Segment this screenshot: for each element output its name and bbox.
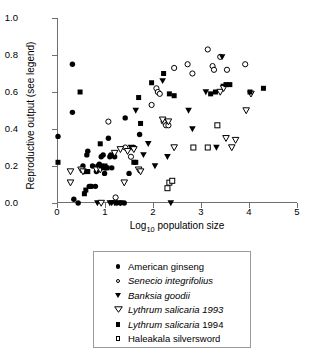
- x-tick-label: 2: [150, 207, 155, 217]
- data-point: [205, 47, 210, 52]
- data-point: [93, 184, 98, 189]
- data-point: [228, 145, 235, 151]
- legend-item[interactable]: Lythrum salicaria 1993: [94, 303, 250, 318]
- data-point: [224, 67, 229, 72]
- data-point: [85, 149, 90, 154]
- x-axis-label-base: Log: [130, 220, 147, 231]
- data-point: [261, 86, 266, 91]
- data-point: [75, 200, 80, 205]
- data-point: [191, 145, 196, 150]
- x-axis-label-subscript: 10: [146, 225, 154, 234]
- legend-marker-filled-circle-icon: [108, 264, 128, 269]
- legend-item-label: Banksia goodii: [128, 291, 190, 301]
- data-point: [83, 188, 88, 193]
- legend-item-label: Lythrum salicaria 1994: [128, 320, 223, 330]
- data-point: [67, 169, 74, 175]
- data-point: [67, 180, 74, 186]
- data-point: [117, 147, 124, 153]
- y-tick-label: 0.2: [5, 161, 18, 171]
- series-banksia-goodii: [94, 54, 227, 206]
- x-tick-mark: [105, 203, 106, 208]
- data-point: [126, 171, 131, 176]
- data-point: [56, 160, 61, 165]
- legend-item[interactable]: American ginseng: [94, 259, 250, 274]
- data-point: [70, 62, 75, 67]
- x-tick-label: 1: [102, 207, 107, 217]
- data-point: [227, 82, 232, 87]
- series-american-ginseng: [55, 62, 142, 206]
- data-point: [102, 171, 107, 176]
- x-tick-mark: [201, 203, 202, 208]
- x-tick-mark: [249, 203, 250, 208]
- y-tick-label: 1.0: [5, 13, 18, 23]
- legend-marker-open-triangle-down-icon: [108, 306, 128, 313]
- data-point: [215, 123, 220, 128]
- chart-page: 0.00.20.40.60.81.0 Reproductive output (…: [0, 0, 319, 357]
- y-tick-label: 0.4: [5, 124, 18, 134]
- x-tick-mark: [297, 203, 298, 208]
- data-point: [133, 160, 138, 165]
- data-point: [171, 145, 178, 151]
- data-point: [223, 136, 230, 142]
- legend-marker-filled-square-icon: [108, 322, 128, 327]
- data-point: [165, 186, 170, 191]
- series-senecio-integrifolius: [106, 47, 248, 200]
- data-point: [205, 145, 210, 150]
- data-point: [136, 95, 141, 100]
- legend-item-label: American ginseng: [128, 262, 204, 272]
- legend-item-label: Lythrum salicaria 1993: [128, 305, 223, 315]
- series-lythrum-salicaria-1994: [56, 71, 266, 196]
- x-tick-mark: [153, 203, 154, 208]
- legend-item[interactable]: Banksia goodii: [94, 288, 250, 303]
- legend-item[interactable]: Senecio integrifolius: [94, 274, 250, 289]
- data-point: [170, 178, 175, 183]
- data-point: [164, 154, 171, 160]
- data-point: [78, 90, 83, 95]
- data-point: [232, 137, 239, 143]
- y-axis-label: Reproductive output (see legend): [25, 16, 36, 216]
- data-point: [213, 145, 220, 151]
- x-tick-label: 4: [246, 207, 251, 217]
- plot-area: [57, 18, 297, 203]
- data-point: [70, 110, 75, 115]
- data-point: [161, 71, 166, 76]
- data-point: [243, 62, 248, 67]
- data-point: [104, 165, 109, 170]
- y-tick-label: 0.0: [5, 198, 18, 208]
- y-tick-label: 0.8: [5, 50, 18, 60]
- data-point: [98, 141, 103, 146]
- data-point: [113, 195, 118, 200]
- x-tick-label: 3: [198, 207, 203, 217]
- x-axis-label: Log10 population size: [57, 220, 297, 234]
- data-point: [55, 134, 60, 139]
- data-point: [106, 119, 111, 124]
- data-point: [138, 121, 143, 126]
- legend-marker-open-square-icon: [108, 336, 128, 341]
- x-tick-label: 5: [294, 207, 299, 217]
- data-point: [172, 93, 177, 98]
- legend-box: American ginsengSenecio integrifoliusBan…: [93, 251, 251, 348]
- data-point: [167, 91, 172, 96]
- data-point: [190, 71, 195, 76]
- data-point: [211, 67, 216, 72]
- data-point: [149, 102, 154, 107]
- legend-item[interactable]: Lythrum salicaria 1994: [94, 317, 250, 332]
- data-point: [100, 152, 105, 157]
- x-axis-label-rest: population size: [155, 220, 225, 231]
- data-point: [172, 65, 177, 70]
- data-point: [109, 165, 114, 170]
- data-point: [185, 62, 190, 67]
- data-point: [121, 180, 128, 186]
- data-point: [85, 169, 90, 174]
- scatter-plot-figure: 0.00.20.40.60.81.0 Reproductive output (…: [0, 0, 319, 240]
- legend-marker-open-circle-icon: [108, 279, 128, 284]
- data-point: [124, 149, 131, 155]
- data-point: [149, 80, 154, 85]
- data-point: [71, 197, 76, 202]
- legend-item[interactable]: Haleakala silversword: [94, 332, 250, 347]
- data-point: [132, 108, 139, 114]
- y-tick-label: 0.6: [5, 87, 18, 97]
- data-point: [106, 136, 111, 141]
- data-point: [128, 154, 133, 159]
- legend-marker-filled-triangle-down-icon: [108, 293, 128, 298]
